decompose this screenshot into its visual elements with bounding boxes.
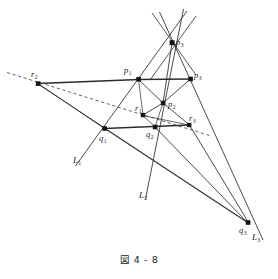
marker-q3 — [246, 220, 251, 225]
marker-r3 — [187, 123, 191, 127]
figure-container: p1 p2 p3 p3 q1 q2 q3 r1 r2 r3 L1 L2 L3 図… — [0, 0, 278, 279]
label-q1: q1 — [99, 134, 106, 143]
apex-pencil-extra — [150, 13, 196, 80]
label-r3: r3 — [189, 114, 195, 123]
label-q2: q2 — [146, 130, 153, 139]
figure-caption: 図 4 - 8 — [0, 252, 278, 266]
label-p1: p1 — [124, 66, 131, 75]
rays-from-r2 — [38, 80, 248, 223]
marker-r2 — [36, 81, 41, 86]
label-r1: r1 — [135, 104, 141, 113]
label-p2: p2 — [168, 100, 175, 109]
label-p3-right: p3 — [194, 71, 201, 80]
triangle-p — [139, 43, 191, 103]
label-p3: p3 — [176, 38, 183, 47]
label-line-L2: L2 — [139, 191, 147, 200]
marker-p3b — [188, 77, 193, 82]
marker-p3 — [170, 40, 175, 45]
marker-p2 — [161, 101, 166, 106]
label-r2: r2 — [31, 70, 37, 79]
label-line-L3: L3 — [252, 233, 260, 242]
marker-p1 — [136, 77, 141, 82]
label-line-L1: L1 — [73, 156, 81, 165]
marker-q1 — [102, 126, 107, 131]
marker-q2 — [153, 125, 158, 130]
geometry-diagram — [0, 0, 278, 279]
label-q3: q3 — [239, 226, 246, 235]
